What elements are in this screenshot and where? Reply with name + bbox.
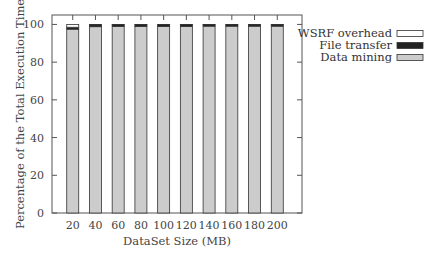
bar-segment-data-mining	[249, 26, 261, 213]
bar-60	[112, 24, 124, 213]
bar-segment-data-mining	[67, 29, 79, 213]
bar-40	[89, 24, 101, 213]
bar-80	[135, 24, 147, 213]
x-tick-label: 100	[153, 219, 174, 232]
bar-segment-wsrf-overhead	[67, 24, 79, 27]
x-tick-label: 60	[111, 219, 125, 232]
bar-200	[271, 24, 283, 213]
stacked-bar-chart: 020406080100 20406080100120140160180200 …	[0, 0, 438, 260]
bar-segment-data-mining	[135, 26, 147, 213]
bar-segment-data-mining	[158, 26, 170, 213]
bar-segment-data-mining	[203, 26, 215, 213]
legend-swatch	[397, 55, 423, 61]
bar-180	[249, 24, 261, 213]
bar-140	[203, 24, 215, 213]
y-tick-label: 0	[37, 207, 44, 220]
x-tick-label: 160	[221, 219, 242, 232]
legend-swatch	[397, 43, 423, 49]
bar-120	[180, 24, 192, 213]
bar-100	[158, 24, 170, 213]
x-axis-label: DataSet Size (MB)	[123, 234, 231, 248]
y-tick-label: 40	[30, 132, 44, 145]
y-tick-label: 60	[30, 94, 44, 107]
bar-160	[226, 24, 238, 213]
x-tick-label: 20	[66, 219, 80, 232]
legend: WSRF overheadFile transferData mining	[298, 26, 423, 64]
bars	[67, 24, 284, 213]
x-tick-label: 40	[88, 219, 102, 232]
legend-label: Data mining	[320, 50, 392, 64]
bar-20	[67, 24, 79, 213]
y-axis-label: Percentage of the Total Execution Time	[13, 0, 27, 229]
bar-segment-data-mining	[180, 26, 192, 213]
x-tick-label: 120	[176, 219, 197, 232]
x-tick-label: 200	[267, 219, 288, 232]
y-tick-label: 20	[30, 169, 44, 182]
x-tick-label: 180	[244, 219, 265, 232]
bar-segment-data-mining	[89, 27, 101, 213]
bar-segment-data-mining	[271, 26, 283, 213]
legend-swatch	[397, 31, 423, 37]
x-tick-label: 140	[199, 219, 220, 232]
bar-segment-data-mining	[226, 26, 238, 213]
x-tick-label: 80	[134, 219, 148, 232]
y-tick-label: 80	[30, 56, 44, 69]
bar-segment-data-mining	[112, 26, 124, 213]
